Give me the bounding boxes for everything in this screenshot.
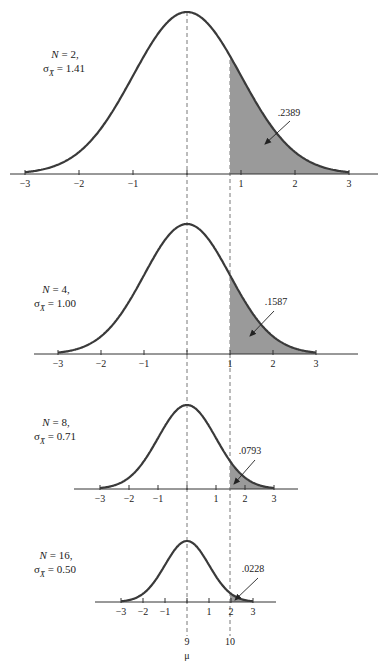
x-tick-label: 3 [272,493,277,504]
x-tick-label: −1 [128,178,139,189]
x-tick-label: 2 [229,606,234,617]
x-tick-label: −3 [116,606,127,617]
n-label: N = 2, [50,48,79,60]
shaded-tail-area [230,275,316,354]
x-tick-label: 1 [239,178,244,189]
x-tick-label: −3 [95,493,106,504]
x-tick-label: −2 [96,358,107,369]
mean-raw-label: 9 [185,636,190,647]
x-tick-label: 2 [271,358,276,369]
x-tick-label: 2 [243,493,248,504]
tail-area-label: .1587 [265,296,288,307]
sigma-label: σX̄ = 1.41 [43,62,85,78]
normal-curve [121,541,253,601]
raw-score-scale: 9 10 μ [184,636,235,661]
sigma-label: σX̄ = 0.71 [34,430,76,446]
sigma-label: σX̄ = 0.50 [34,563,76,579]
x-tick-label: −2 [124,493,135,504]
shaded-tail-area [230,461,274,489]
x-tick-label: −1 [139,358,150,369]
x-tick-label: 2 [293,178,298,189]
mu-label: μ [184,650,189,661]
x-tick-label: −3 [53,358,64,369]
tail-area-label: .0793 [239,445,262,456]
x-tick-label: −2 [74,178,85,189]
x-tick-label: −2 [138,606,149,617]
arrow-icon [235,578,258,600]
n-label: N = 16, [39,549,73,561]
panels: −3−2−1123N = 2,σX̄ = 1.41.2389−3−2−1123N… [10,12,378,617]
cutoff-raw-label: 10 [225,636,235,647]
x-tick-label: 3 [314,358,319,369]
x-tick-label: −1 [153,493,164,504]
x-tick-label: 3 [251,606,256,617]
chart-canvas: −3−2−1123N = 2,σX̄ = 1.41.2389−3−2−1123N… [0,0,384,669]
tail-area-label: .2389 [278,107,301,118]
n-label: N = 4, [41,283,70,295]
x-tick-label: 1 [214,493,219,504]
x-tick-label: −1 [160,606,171,617]
panel-n2: −3−2−1123N = 2,σX̄ = 1.41.2389 [10,12,378,189]
sigma-label: σX̄ = 1.00 [34,297,76,313]
n-label: N = 8, [41,416,70,428]
panel-n16: −3−2−1123N = 16,σX̄ = 0.50.0228 [34,541,276,617]
x-tick-label: 3 [347,178,352,189]
sampling-distribution-figure: −3−2−1123N = 2,σX̄ = 1.41.2389−3−2−1123N… [0,0,384,669]
panel-n8: −3−2−1123N = 8,σX̄ = 0.71.0793 [34,405,298,504]
panel-n4: −3−2−1123N = 4,σX̄ = 1.00.1587 [34,224,358,369]
x-tick-label: −3 [20,178,31,189]
x-tick-label: 1 [207,606,212,617]
x-tick-label: 1 [228,358,233,369]
tail-area-label: .0228 [242,563,265,574]
